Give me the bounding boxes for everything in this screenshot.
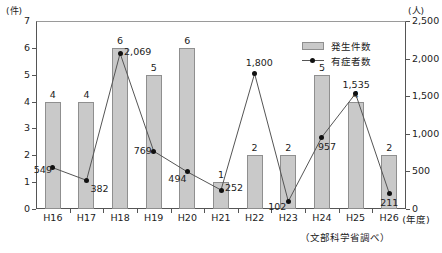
- x-axis-tick-label: H26: [372, 212, 406, 223]
- line-data-point: [286, 199, 291, 204]
- bar-value-label: 2: [274, 142, 302, 153]
- y-axis-left-tick-mark: [32, 128, 36, 129]
- line-value-label: 1,535: [343, 79, 370, 90]
- line-value-label: 211: [380, 197, 398, 208]
- bar: [247, 155, 263, 209]
- line-data-point: [118, 51, 123, 56]
- legend-label-line: 有症者数: [331, 54, 371, 68]
- x-axis-tick-label: H25: [339, 212, 373, 223]
- y-axis-left-tick-label: 4: [8, 97, 30, 107]
- y-axis-left-tick-label: 2: [8, 150, 30, 160]
- y-axis-left-tick-label: 5: [8, 70, 30, 80]
- x-axis-tick-label: H20: [171, 212, 205, 223]
- y-axis-right-tick-label: 1,000: [412, 129, 442, 139]
- x-axis-tick-label: H19: [137, 212, 171, 223]
- y-axis-left-tick-mark: [32, 75, 36, 76]
- legend-bar-swatch: [302, 42, 324, 50]
- line-value-label: 102: [268, 201, 286, 212]
- line-value-label: 252: [225, 182, 243, 193]
- y-axis-left-tick-mark: [32, 102, 36, 103]
- y-axis-left-tick-mark: [32, 209, 36, 210]
- y-axis-right-tick-mark: [406, 134, 410, 135]
- bar: [112, 48, 128, 209]
- line-data-point: [219, 188, 224, 193]
- legend-item-bars: 発生件数: [302, 38, 402, 53]
- legend-line-swatch: [302, 57, 324, 65]
- y-axis-right-tick-mark: [406, 171, 410, 172]
- y-axis-right-tick-mark: [406, 96, 410, 97]
- bar-value-label: 4: [72, 89, 100, 100]
- y-axis-left-tick-mark: [32, 155, 36, 156]
- y-axis-left-tick-label: 0: [8, 204, 30, 214]
- bar: [348, 102, 364, 209]
- y-axis-left-tick-mark: [32, 182, 36, 183]
- y-axis-left-tick-label: 7: [8, 16, 30, 26]
- bar-value-label: 4: [39, 89, 67, 100]
- x-axis-tick-label: H16: [36, 212, 70, 223]
- line-data-point: [151, 149, 156, 154]
- y-axis-right-tick-label: 2,500: [412, 16, 442, 26]
- line-value-label: 1,800: [246, 57, 273, 68]
- bar-value-label: 1: [207, 169, 235, 180]
- y-axis-left-tick-mark: [32, 48, 36, 49]
- y-axis-left-tick-label: 1: [8, 177, 30, 187]
- line-value-label: 2,069: [124, 46, 151, 57]
- x-axis-tick-label: H24: [305, 212, 339, 223]
- y-axis-left-tick-label: 6: [8, 43, 30, 53]
- x-axis-tick-label: H22: [238, 212, 272, 223]
- line-data-point: [84, 178, 89, 183]
- bar: [146, 75, 162, 209]
- y-axis-right-tick-label: 1,500: [412, 91, 442, 101]
- legend-item-line: 有症者数: [302, 53, 402, 68]
- line-value-label: 769: [134, 145, 152, 156]
- x-axis-tick-label: H21: [204, 212, 238, 223]
- x-axis-title: (年度): [402, 212, 429, 226]
- bar-value-label: 2: [241, 142, 269, 153]
- line-value-label: 957: [318, 141, 336, 152]
- chart-container: (件) (人) 01234567 05001,0001,5002,0002,50…: [0, 0, 442, 253]
- y-axis-left-tick-label: 3: [8, 123, 30, 133]
- x-axis-tick-label: H18: [103, 212, 137, 223]
- y-axis-right-tick-label: 500: [412, 166, 442, 176]
- legend-label-bars: 発生件数: [331, 39, 371, 53]
- bar-value-label: 5: [140, 62, 168, 73]
- bar-value-label: 6: [106, 35, 134, 46]
- line-value-label: 494: [168, 173, 186, 184]
- x-axis-tick-label: H17: [70, 212, 104, 223]
- y-axis-right-tick-label: 2,000: [412, 54, 442, 64]
- bar-value-label: 6: [173, 35, 201, 46]
- x-axis-tick-label: H23: [271, 212, 305, 223]
- line-value-label: 549: [34, 164, 52, 175]
- y-axis-right-tick-mark: [406, 59, 410, 60]
- bar: [179, 48, 195, 209]
- bar-value-label: 2: [375, 142, 403, 153]
- y-axis-right-tick-mark: [406, 21, 410, 22]
- source-note: （文部科学省調べ）: [300, 230, 390, 244]
- y-axis-right-tick-mark: [406, 209, 410, 210]
- line-data-point: [387, 191, 392, 196]
- line-value-label: 382: [90, 183, 108, 194]
- legend: 発生件数 有症者数: [302, 38, 402, 68]
- bar: [45, 102, 61, 209]
